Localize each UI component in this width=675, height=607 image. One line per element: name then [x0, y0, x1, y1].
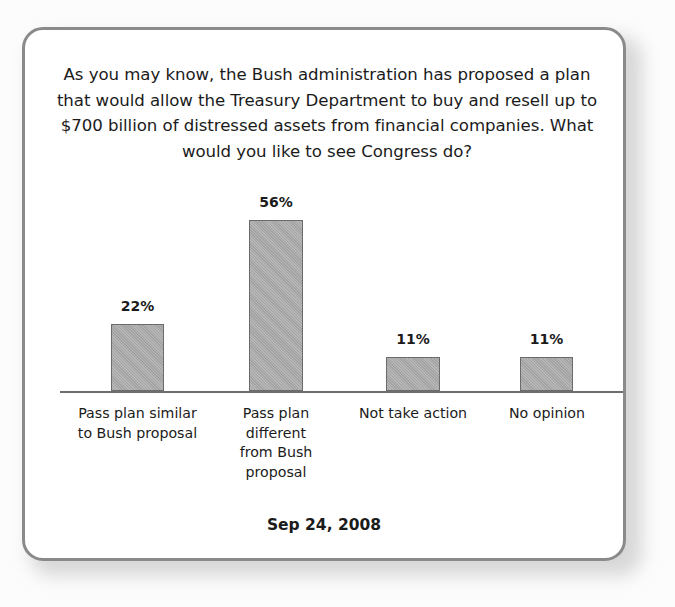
bar-label-not-take-action: Not take action — [345, 404, 481, 424]
bar-label-line: to Bush proposal — [55, 424, 220, 444]
bar-label-line: proposal — [216, 463, 336, 483]
bar-rect-pass-plan-similar[interactable] — [111, 324, 164, 391]
bar-label-line: Pass plan similar — [55, 404, 220, 424]
bar-label-line: from Bush — [216, 443, 336, 463]
bar-rect-no-opinion[interactable] — [520, 357, 573, 391]
bar-label-line: Pass plan — [216, 404, 336, 424]
bar-label-line: Not take action — [345, 404, 481, 424]
bar-value-pass-plan-different: 56% — [229, 194, 323, 210]
bar-value-no-opinion: 11% — [500, 331, 593, 347]
bar-value-pass-plan-similar: 22% — [91, 298, 184, 314]
chart-date-footer: Sep 24, 2008 — [25, 516, 623, 534]
bar-label-pass-plan-similar: Pass plan similar to Bush proposal — [55, 404, 220, 443]
bar-value-not-take-action: 11% — [366, 331, 460, 347]
bar-label-line: different — [216, 424, 336, 444]
bar-chart-plot-area: 22% Pass plan similar to Bush proposal 5… — [25, 30, 623, 558]
x-axis-baseline — [60, 391, 625, 393]
poll-chart-card: As you may know, the Bush administration… — [22, 27, 626, 561]
bar-rect-pass-plan-different[interactable] — [249, 220, 303, 391]
bar-label-line: No opinion — [486, 404, 608, 424]
bar-label-pass-plan-different: Pass plan different from Bush proposal — [216, 404, 336, 482]
bar-rect-not-take-action[interactable] — [386, 357, 440, 391]
bar-label-no-opinion: No opinion — [486, 404, 608, 424]
